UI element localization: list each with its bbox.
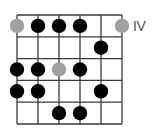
note-dot [31,19,45,33]
note-dot [94,84,108,98]
note-dot [52,19,66,33]
position-label: IV [133,18,145,34]
note-dots [10,19,129,121]
note-dot [52,106,66,120]
note-dot [10,84,24,98]
root-note-dot [10,19,24,33]
note-dot [31,62,45,76]
note-dot [73,19,87,33]
note-dot [73,106,87,120]
root-note-dot [52,62,66,76]
note-dot [73,62,87,76]
note-dot [10,62,24,76]
note-dot [31,84,45,98]
fretboard-diagram [0,0,153,135]
note-dot [94,41,108,55]
root-note-dot [115,19,129,33]
